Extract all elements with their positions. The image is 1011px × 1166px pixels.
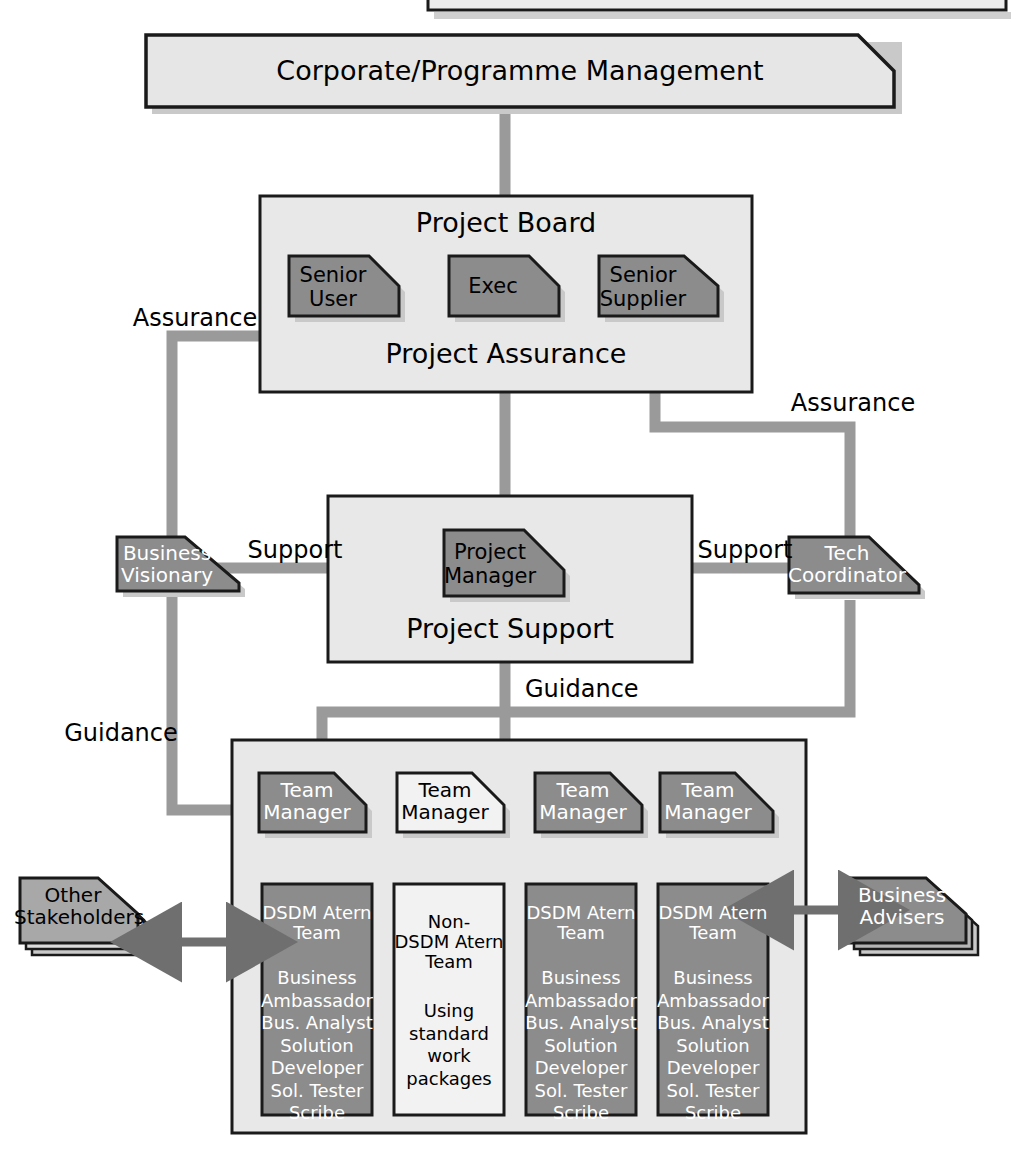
- project-board-title: Project Board: [260, 208, 752, 238]
- team-box-3-members: Business Ambassador Bus. Analyst Solutio…: [522, 967, 640, 1125]
- team-box-2-heading: Non- DSDM Atern Team: [390, 912, 508, 972]
- team-box-2-members: Using standard work packages: [390, 1000, 508, 1090]
- external-business-advisers-label: Business Advisers: [846, 884, 958, 929]
- label-guidance-centre: Guidance: [525, 676, 655, 703]
- external-other-stakeholders-label: Other Stakeholders: [14, 884, 132, 929]
- project-assurance-label: Project Assurance: [260, 339, 752, 369]
- role-exec-label: Exec: [449, 275, 537, 299]
- role-team-manager-1-label: Team Manager: [257, 779, 357, 824]
- team-box-1-members: Business Ambassador Bus. Analyst Solutio…: [258, 967, 376, 1125]
- label-support-right: Support: [690, 537, 800, 564]
- label-assurance-right: Assurance: [788, 390, 918, 417]
- label-support-left: Support: [240, 537, 350, 564]
- label-guidance-left: Guidance: [56, 720, 186, 747]
- top-partial-box: [428, 0, 1011, 19]
- corporate-label: Corporate/Programme Management: [146, 56, 894, 86]
- project-support-title: Project Support: [328, 614, 692, 644]
- role-team-manager-3-label: Team Manager: [533, 779, 633, 824]
- role-team-manager-2-label: Team Manager: [395, 779, 495, 824]
- role-senior-supplier-label: Senior Supplier: [596, 264, 690, 311]
- role-business-visionary-label: Business Visionary: [117, 542, 217, 587]
- diagram-canvas: Corporate/Programme Management Project B…: [0, 0, 1011, 1166]
- role-team-manager-4-label: Team Manager: [658, 779, 758, 824]
- team-box-4-members: Business Ambassador Bus. Analyst Solutio…: [654, 967, 772, 1125]
- role-project-manager-label: Project Manager: [444, 541, 536, 588]
- role-tech-coordinator-label: Tech Coordinator: [786, 542, 908, 587]
- role-senior-user-label: Senior User: [289, 264, 377, 311]
- team-box-1-heading: DSDM Atern Team: [258, 903, 376, 943]
- team-box-4-heading: DSDM Atern Team: [654, 903, 772, 943]
- label-assurance-left: Assurance: [130, 305, 260, 332]
- team-box-3-heading: DSDM Atern Team: [522, 903, 640, 943]
